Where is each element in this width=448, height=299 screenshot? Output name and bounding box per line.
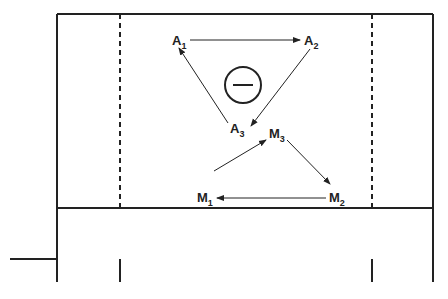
node-m1: M1 <box>197 190 213 208</box>
node-m2: M2 <box>329 190 345 208</box>
node-m3: M3 <box>269 126 285 144</box>
node-a2: A2 <box>304 33 318 51</box>
arrow-m1-m3 <box>214 140 266 171</box>
diagram-canvas: A1 A2 A3 M3 M1 M2 <box>0 0 448 299</box>
arrow-a3-a1 <box>179 48 228 123</box>
frame <box>10 14 433 282</box>
node-a3: A3 <box>230 121 244 139</box>
minus-sign-icon <box>225 67 261 103</box>
arrow-m3-m2 <box>287 140 330 184</box>
